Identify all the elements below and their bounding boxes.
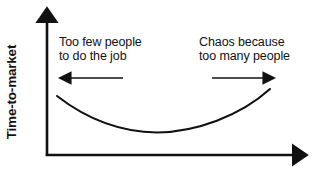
time-to-market-curve	[57, 89, 270, 133]
left-annotation-line-1: Too few people	[59, 36, 142, 50]
left-annotation-text: Too few people to do the job	[59, 36, 142, 63]
left-annotation-line-2: to do the job	[59, 50, 142, 64]
right-annotation-line-1: Chaos because	[199, 36, 290, 50]
right-annotation-text: Chaos because too many people	[199, 36, 290, 63]
time-to-market-figure: Time-to-market Too few pe	[0, 0, 313, 184]
plot-area	[0, 0, 313, 184]
right-annotation-line-2: too many people	[199, 50, 290, 64]
